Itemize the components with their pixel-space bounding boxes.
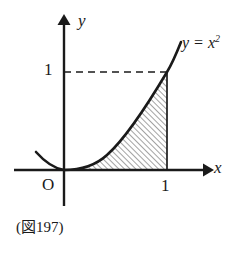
y-axis-tick-label-1: 1	[44, 61, 53, 78]
x-axis-arrowhead	[203, 164, 214, 177]
y-axis-label: y	[78, 12, 86, 29]
figure-container: y = x2 y x O 1 1 ) (図197)	[0, 0, 247, 255]
x-axis-label: x	[214, 159, 222, 176]
figure-caption: (図197)	[16, 215, 64, 236]
x-axis-tick-label-1: 1	[161, 177, 170, 194]
y-axis-arrowhead	[58, 14, 71, 25]
y-axis	[58, 14, 71, 206]
origin-label: O	[42, 176, 54, 193]
shaded-area-under-curve	[64, 72, 167, 170]
curve-equation-label: y = x2	[182, 34, 220, 51]
